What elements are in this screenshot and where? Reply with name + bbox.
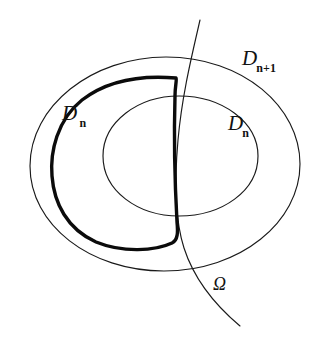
label-inner-domain-subscript: n (242, 126, 249, 140)
label-omega-main: Ω (213, 274, 226, 294)
label-outer-domain-main: D (242, 46, 257, 70)
label-omega: Ω (213, 275, 226, 293)
label-outer-domain: Dn+1 (242, 48, 277, 71)
label-bold-domain-subscript: n (79, 116, 86, 130)
omega-curve (176, 20, 240, 326)
label-inner-domain-main: D (228, 111, 243, 135)
label-bold-domain: D′n (62, 103, 87, 126)
figure-canvas: Dn+1 D′n Dn Ω (0, 0, 329, 348)
label-inner-domain: Dn (228, 113, 250, 136)
diagram-svg (0, 0, 329, 348)
outer-ellipse (30, 57, 300, 271)
label-bold-domain-prime: ′ (75, 100, 78, 116)
label-outer-domain-subscript: n+1 (256, 61, 276, 75)
